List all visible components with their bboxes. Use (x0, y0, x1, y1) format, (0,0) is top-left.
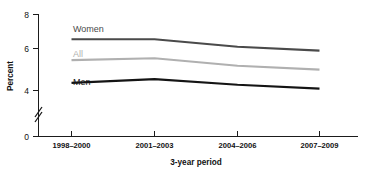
line-chart: 8 6 4 0 Percent 1998–2000 2001–2003 2004… (0, 0, 366, 173)
y-tick-label-0: 0 (24, 132, 29, 142)
x-tick-label-2: 2001–2003 (135, 141, 173, 150)
series-label-women: Women (73, 24, 104, 34)
x-tick-label-1: 1998–2000 (52, 141, 90, 150)
x-axis-title: 3-year period (170, 158, 221, 167)
y-axis-title: Percent (6, 61, 15, 91)
x-tick-label-4: 2007–2009 (300, 141, 338, 150)
y-tick-label-4: 4 (24, 86, 29, 96)
series-label-men: Men (73, 77, 91, 87)
x-tick-label-3: 2004–2006 (218, 141, 256, 150)
y-tick-label-6: 6 (24, 44, 29, 54)
y-tick-label-8: 8 (24, 10, 29, 20)
series-label-all: All (73, 49, 83, 59)
chart-container: 8 6 4 0 Percent 1998–2000 2001–2003 2004… (0, 0, 366, 173)
